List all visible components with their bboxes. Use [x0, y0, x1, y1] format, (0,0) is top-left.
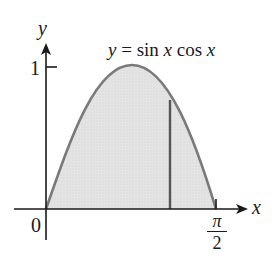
function-title: y = sin x cos x — [108, 40, 215, 59]
title-x1: x — [164, 39, 172, 60]
y-tick-label-1: 1 — [30, 58, 40, 78]
title-eq: = sin — [116, 39, 163, 60]
x-tick-label-pi-half: π 2 — [207, 212, 227, 252]
pi-denominator: 2 — [207, 232, 227, 252]
title-cos: cos — [172, 39, 207, 60]
title-x2: x — [207, 39, 215, 60]
origin-label: 0 — [31, 215, 41, 235]
y-axis-label: y — [38, 18, 47, 38]
pi-numerator: π — [207, 212, 227, 232]
x-axis-label: x — [252, 197, 261, 217]
